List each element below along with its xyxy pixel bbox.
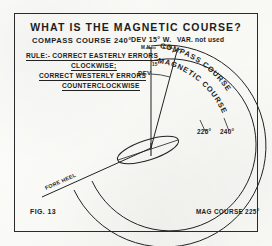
rule-line-3: CORRECT WESTERLY ERRORS	[39, 72, 146, 81]
rule-line-4: COUNTERCLOCKWISE	[62, 82, 140, 91]
given-deviation: DEV 15° W.	[131, 36, 172, 43]
given-variation: VAR. not used	[177, 36, 224, 43]
figure-page: COMPASS COURSE MAGNETIC COURSE FORE HEEL…	[0, 0, 272, 246]
figure-caption: FIG. 13	[30, 208, 56, 215]
figure-title: WHAT IS THE MAGNETIC COURSE?	[0, 21, 272, 33]
degree-label-outer: 240°	[220, 128, 234, 135]
deviation-label: DEV	[138, 69, 151, 76]
magnetic-north-label: M.N.	[141, 45, 152, 50]
given-compass-course: COMPASS COURSE 240°	[32, 36, 132, 45]
magnetic-course-answer: MAG COURSE 225°	[196, 208, 260, 215]
rule-line-2: CLOCKWISE;	[71, 62, 117, 71]
deviation-angle-label: 15°	[152, 62, 160, 67]
figure-border	[14, 13, 258, 232]
degree-label-inner: 225°	[197, 128, 211, 135]
compass-north-label: C.N.	[163, 45, 173, 50]
rule-line-1: RULE:- CORRECT EASTERLY ERRORS	[26, 52, 158, 61]
